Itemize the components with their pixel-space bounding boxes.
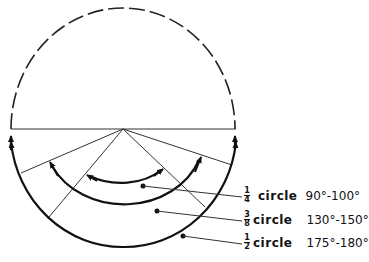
quarter-arc: [90, 170, 161, 183]
radial-line-1: [21, 129, 123, 173]
fraction: 1 2: [244, 234, 250, 251]
upper-dashed-arc: [11, 8, 235, 129]
radial-line-4: [123, 129, 232, 165]
leader-three-eighths: [157, 211, 242, 221]
label-quarter: 1 4 circle 90°-100°: [244, 187, 360, 204]
label-half: 1 2 circle 175°-180°: [244, 234, 369, 251]
fraction: 1 4: [244, 187, 250, 204]
fraction: 3 8: [244, 211, 250, 228]
half-circle-arc: [11, 142, 236, 247]
label-three-eighths: 3 8 circle 130°-150°: [244, 211, 369, 228]
leader-half: [183, 236, 242, 244]
